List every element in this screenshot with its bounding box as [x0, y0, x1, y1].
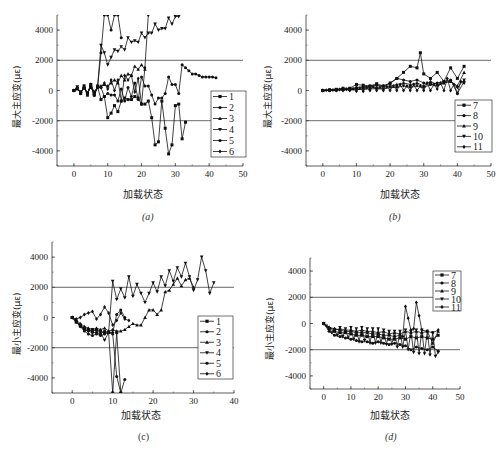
data-marker — [198, 74, 201, 77]
data-marker — [131, 295, 135, 298]
data-marker — [137, 98, 140, 101]
data-marker — [111, 331, 114, 334]
data-marker — [110, 112, 113, 115]
data-marker — [180, 275, 184, 278]
data-marker — [91, 334, 94, 337]
data-marker — [87, 311, 90, 315]
data-marker — [143, 301, 147, 304]
data-marker — [167, 17, 171, 20]
data-marker — [449, 66, 452, 69]
data-marker — [200, 256, 204, 259]
legend: 123456 — [198, 316, 233, 380]
data-marker — [127, 98, 130, 101]
panel-b-xlabel: 加载状态 — [380, 186, 420, 201]
data-marker — [184, 66, 187, 69]
panel-d-caption: (d) — [385, 431, 397, 442]
data-marker — [205, 330, 208, 333]
y-tick-label: -4000 — [281, 146, 302, 156]
legend-entry-10: 10 — [473, 131, 483, 142]
data-marker — [111, 392, 114, 395]
data-marker — [333, 334, 336, 337]
data-marker — [349, 338, 352, 341]
data-marker — [371, 327, 375, 330]
data-marker — [177, 103, 180, 106]
data-marker — [133, 64, 137, 67]
x-tick-label: 20 — [137, 169, 147, 179]
data-marker — [159, 275, 163, 278]
data-marker — [116, 50, 120, 53]
data-marker — [155, 290, 159, 293]
data-marker — [133, 95, 136, 98]
x-tick-label: 30 — [171, 169, 181, 179]
x-tick-label: 40 — [428, 392, 438, 402]
data-marker — [123, 378, 126, 381]
data-marker — [147, 292, 151, 295]
panel-d-xlabel: 加载状态 — [370, 407, 410, 422]
y-tick-label: -2000 — [27, 343, 48, 353]
data-marker — [133, 81, 136, 84]
data-marker — [127, 86, 130, 89]
legend-entry-3: 3 — [229, 113, 234, 124]
data-marker — [181, 137, 184, 140]
x-tick-label: 0 — [321, 392, 326, 402]
data-marker — [95, 331, 98, 334]
data-marker — [95, 326, 99, 329]
data-marker — [371, 342, 374, 345]
y-tick-label: 2000 — [30, 282, 49, 292]
legend-entry-2: 2 — [229, 102, 234, 113]
x-tick-label: 20 — [386, 169, 396, 179]
data-marker — [409, 65, 412, 68]
y-tick-label: 0 — [298, 86, 303, 96]
data-marker — [409, 328, 412, 332]
data-marker — [131, 322, 135, 325]
y-tick-label: 0 — [49, 86, 54, 96]
data-marker — [402, 71, 405, 74]
data-marker — [431, 346, 434, 349]
data-marker — [412, 327, 415, 331]
data-marker — [159, 308, 163, 311]
series-group — [70, 256, 215, 395]
data-marker — [140, 63, 144, 66]
legend-entry-4: 4 — [229, 124, 234, 135]
x-tick-label: 10 — [103, 169, 113, 179]
x-tick-label: 30 — [419, 169, 429, 179]
data-marker — [181, 63, 184, 66]
x-tick-label: 20 — [374, 392, 384, 402]
data-marker — [205, 362, 208, 365]
data-marker — [331, 88, 334, 92]
panel-b-caption: (b) — [389, 211, 401, 222]
data-marker — [113, 104, 116, 107]
legend-entry-5: 5 — [229, 135, 234, 146]
y-tick-label: 0 — [44, 313, 49, 323]
x-tick-label: 10 — [346, 392, 356, 402]
data-marker — [398, 330, 402, 333]
data-marker — [157, 97, 160, 100]
data-marker — [133, 90, 136, 94]
x-tick-label: 0 — [72, 169, 77, 179]
data-marker — [106, 116, 109, 119]
data-marker — [140, 75, 143, 78]
data-marker — [365, 327, 369, 330]
data-marker — [106, 63, 110, 66]
panel-b-ylabel: 最大主应变(με) — [261, 65, 274, 128]
data-marker — [103, 95, 106, 98]
data-marker — [409, 80, 412, 83]
data-marker — [157, 29, 161, 32]
data-marker — [99, 44, 103, 47]
data-marker — [116, 14, 119, 17]
y-tick-label: -2000 — [285, 345, 306, 355]
data-marker — [143, 84, 146, 87]
data-marker — [116, 100, 119, 103]
data-marker — [139, 292, 143, 295]
data-marker — [434, 355, 438, 358]
data-marker — [344, 336, 347, 339]
data-marker — [113, 14, 116, 17]
data-marker — [143, 66, 146, 70]
data-marker — [99, 51, 102, 54]
data-marker — [218, 106, 221, 109]
data-marker — [419, 51, 422, 54]
data-marker — [204, 75, 207, 78]
legend: 7891011 — [433, 270, 461, 313]
data-marker — [154, 143, 157, 146]
legend-entry-9: 9 — [473, 121, 478, 132]
